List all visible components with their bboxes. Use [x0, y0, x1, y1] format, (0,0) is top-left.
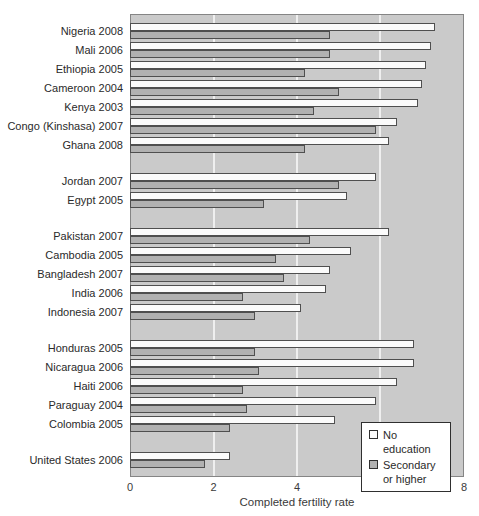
- country-row: Mali 2006: [0, 42, 464, 58]
- bar-secondary-or-higher: [130, 405, 247, 413]
- bar-no-education: [130, 416, 335, 424]
- bar-no-education: [130, 452, 230, 460]
- bar-no-education: [130, 378, 397, 386]
- x-tick-label: 2: [210, 481, 216, 493]
- country-label: Indonesia 2007: [0, 304, 130, 320]
- country-label: Ghana 2008: [0, 137, 130, 153]
- bar-track: [130, 137, 464, 153]
- country-label: Congo (Kinshasa) 2007: [0, 118, 130, 134]
- bar-secondary-or-higher: [130, 31, 330, 39]
- bar-track: [130, 340, 464, 356]
- bar-secondary-or-higher: [130, 145, 305, 153]
- country-group: Jordan 2007Egypt 2005: [0, 173, 464, 208]
- country-label: Ethiopia 2005: [0, 61, 130, 77]
- country-label: United States 2006: [0, 452, 130, 468]
- bar-secondary-or-higher: [130, 181, 339, 189]
- legend-label-no-education: No education: [383, 428, 445, 456]
- bar-no-education: [130, 340, 414, 348]
- bar-no-education: [130, 42, 431, 50]
- country-row: Cambodia 2005: [0, 247, 464, 263]
- bar-no-education: [130, 397, 376, 405]
- bar-secondary-or-higher: [130, 293, 243, 301]
- secondary-or-higher-swatch-icon: [369, 460, 378, 469]
- bar-track: [130, 192, 464, 208]
- bar-track: [130, 80, 464, 96]
- bar-track: [130, 228, 464, 244]
- bar-secondary-or-higher: [130, 200, 264, 208]
- bar-secondary-or-higher: [130, 236, 310, 244]
- bar-track: [130, 266, 464, 282]
- country-label: Honduras 2005: [0, 340, 130, 356]
- bar-track: [130, 378, 464, 394]
- country-row: Cameroon 2004: [0, 80, 464, 96]
- bar-no-education: [130, 173, 376, 181]
- bar-track: [130, 247, 464, 263]
- bar-secondary-or-higher: [130, 255, 276, 263]
- country-label: Jordan 2007: [0, 173, 130, 189]
- country-row: Haiti 2006: [0, 378, 464, 394]
- bar-track: [130, 23, 464, 39]
- x-tick-label: 0: [127, 481, 133, 493]
- country-row: Pakistan 2007: [0, 228, 464, 244]
- bar-track: [130, 99, 464, 115]
- country-label: Cameroon 2004: [0, 80, 130, 96]
- country-label: Kenya 2003: [0, 99, 130, 115]
- bar-track: [130, 304, 464, 320]
- country-row: Nigeria 2008: [0, 23, 464, 39]
- country-row: Paraguay 2004: [0, 397, 464, 413]
- x-axis-title: Completed fertility rate: [130, 496, 464, 508]
- bar-secondary-or-higher: [130, 50, 330, 58]
- bar-track: [130, 118, 464, 134]
- country-row: Egypt 2005: [0, 192, 464, 208]
- bar-no-education: [130, 359, 414, 367]
- country-label: Paraguay 2004: [0, 397, 130, 413]
- bar-no-education: [130, 137, 389, 145]
- country-row: Congo (Kinshasa) 2007: [0, 118, 464, 134]
- legend-label-secondary-or-higher: Secondary or higher: [383, 458, 445, 486]
- bar-secondary-or-higher: [130, 312, 255, 320]
- bar-no-education: [130, 266, 330, 274]
- bar-track: [130, 173, 464, 189]
- bar-no-education: [130, 228, 389, 236]
- bar-no-education: [130, 80, 422, 88]
- bar-secondary-or-higher: [130, 348, 255, 356]
- bar-no-education: [130, 23, 435, 31]
- country-group: Nigeria 2008Mali 2006Ethiopia 2005Camero…: [0, 23, 464, 153]
- bar-no-education: [130, 304, 301, 312]
- country-row: Nicaragua 2006: [0, 359, 464, 375]
- legend-item-no-education: No education: [369, 428, 445, 456]
- legend-item-secondary-or-higher: Secondary or higher: [369, 458, 445, 486]
- bar-track: [130, 397, 464, 413]
- country-label: Bangladesh 2007: [0, 266, 130, 282]
- country-row: Ethiopia 2005: [0, 61, 464, 77]
- country-label: Egypt 2005: [0, 192, 130, 208]
- legend: No education Secondary or higher: [361, 422, 451, 492]
- bar-track: [130, 42, 464, 58]
- country-group: Honduras 2005Nicaragua 2006Haiti 2006Par…: [0, 340, 464, 432]
- bar-no-education: [130, 118, 397, 126]
- bar-no-education: [130, 192, 347, 200]
- country-row: Kenya 2003: [0, 99, 464, 115]
- bar-secondary-or-higher: [130, 126, 376, 134]
- bar-track: [130, 359, 464, 375]
- country-row: Indonesia 2007: [0, 304, 464, 320]
- country-row: Bangladesh 2007: [0, 266, 464, 282]
- bar-track: [130, 61, 464, 77]
- bar-groups-container: Nigeria 2008Mali 2006Ethiopia 2005Camero…: [0, 14, 464, 477]
- bar-secondary-or-higher: [130, 69, 305, 77]
- country-label: Nigeria 2008: [0, 23, 130, 39]
- country-label: Haiti 2006: [0, 378, 130, 394]
- bar-track: [130, 285, 464, 301]
- bar-secondary-or-higher: [130, 88, 339, 96]
- country-group: Pakistan 2007Cambodia 2005Bangladesh 200…: [0, 228, 464, 320]
- bar-secondary-or-higher: [130, 386, 243, 394]
- no-education-swatch-icon: [369, 430, 378, 439]
- bar-no-education: [130, 247, 351, 255]
- bar-secondary-or-higher: [130, 424, 230, 432]
- country-label: Pakistan 2007: [0, 228, 130, 244]
- x-tick-label: 8: [461, 481, 467, 493]
- x-tick-label: 4: [294, 481, 300, 493]
- bar-no-education: [130, 61, 426, 69]
- country-row: Jordan 2007: [0, 173, 464, 189]
- country-label: Mali 2006: [0, 42, 130, 58]
